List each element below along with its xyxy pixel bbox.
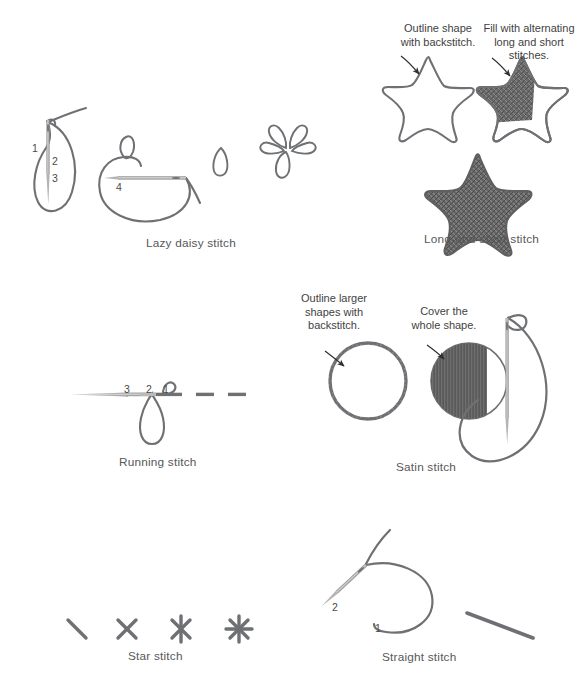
caption-lazy-daisy-stitch: Lazy daisy stitch [146,236,236,250]
caption-running-stitch: Running stitch [119,455,197,469]
running-step-number-1: 1 [163,383,169,395]
step-number-4: 4 [116,181,122,193]
arrow-cover-whole [427,345,444,359]
caption-star-stitch: Star stitch [128,649,183,663]
daisy-flower-shape [260,125,315,177]
single-petal-shape [213,148,227,176]
satin-outline-circle [330,343,406,419]
step-number-1: 1 [32,142,38,154]
annotation-cover-whole-shape: Cover the whole shape. [404,305,484,332]
satin-filled-circle [429,315,546,461]
step-number-3: 3 [52,172,58,184]
straight-stitch-diagram [320,530,533,638]
arrow-outline-backstitch [401,56,419,74]
star-stitch-progression [68,616,252,642]
annotation-outline-shape-backstitch: Outline shape with backstitch. [386,22,490,49]
running-step-number-3: 3 [124,383,130,395]
caption-long-and-short-stitch: Long-and-short stitch [424,232,539,246]
star-partially-filled-shape [470,57,568,142]
running-stitch-diagram [70,382,246,444]
lazy-daisy-diagram-b [99,136,200,221]
caption-straight-stitch: Straight stitch [382,650,456,664]
running-step-number-2: 2 [146,383,152,395]
lazy-daisy-diagram-a [34,108,86,211]
caption-satin-stitch: Satin stitch [396,460,456,474]
star-outline-shape [383,57,474,142]
needle-running [70,393,128,397]
diagram-sheet: Outline shape with backstitch. Fill with… [0,0,582,695]
step-number-2: 2 [52,155,58,167]
stitch-artwork [0,0,582,695]
straight-step-number-1: 1 [375,622,381,634]
annotation-outline-larger-shapes: Outline larger shapes with backstitch. [292,292,376,333]
straight-step-number-2: 2 [332,601,338,613]
needle-satin [506,318,509,418]
annotation-fill-alternating: Fill with alternating long and short sti… [476,22,582,63]
